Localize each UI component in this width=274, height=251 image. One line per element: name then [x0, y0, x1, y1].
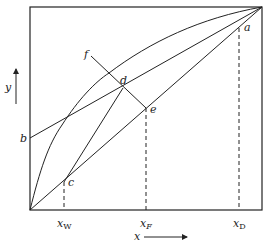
point-b-label: b: [20, 132, 27, 145]
xf-label: xF: [140, 217, 152, 231]
point-e-label: e: [150, 103, 157, 116]
point-d-label: d: [120, 74, 127, 87]
point-f-label: f: [83, 48, 90, 61]
point-a-label: a: [244, 21, 251, 34]
x-axis-label: x: [134, 230, 141, 243]
xd-label: xD: [233, 217, 246, 231]
point-c-label: c: [68, 176, 74, 189]
xw-label: xW: [57, 217, 72, 231]
q-line: [91, 56, 146, 108]
y-axis-label: y: [4, 81, 12, 94]
mccabe-thiele-diagram: a b c d e f xW xF xD y x: [0, 0, 274, 251]
